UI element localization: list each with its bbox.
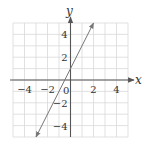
y-tick-label: 2: [61, 52, 67, 63]
x-tick-label: 4: [113, 84, 119, 95]
y-axis-label: y: [65, 4, 73, 18]
coordinate-plane: x y −4−224 42−2−4 0: [0, 0, 145, 154]
y-tick-label: −4: [53, 121, 68, 132]
x-tick-label: −2: [40, 84, 55, 95]
y-tick-label: −2: [53, 98, 68, 109]
x-tick-label: −4: [17, 84, 32, 95]
y-tick-label: 4: [61, 29, 67, 40]
x-axis-label: x: [135, 73, 142, 87]
origin-label: 0: [63, 85, 69, 96]
x-tick-label: 2: [90, 84, 96, 95]
